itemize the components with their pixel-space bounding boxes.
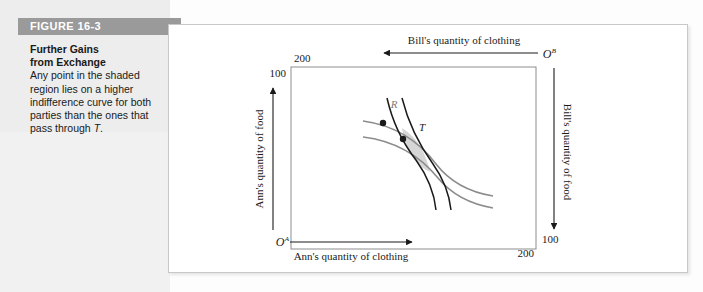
axis-label-right: Bill's quantity of food: [562, 104, 574, 201]
caption-title-line-1: Further Gains: [30, 43, 170, 56]
axis-label-bottom: Ann's quantity of clothing: [294, 250, 409, 262]
point-r-marker: [380, 120, 386, 126]
caption-body-end: .: [100, 122, 103, 134]
point-t-marker: [400, 136, 406, 142]
figure-page: FIGURE 16-3 Further Gains from Exchange …: [0, 0, 703, 292]
ann-indifference-curve-upper: [363, 137, 493, 208]
figure-number-label: FIGURE 16-3: [30, 20, 101, 32]
origin-ann-symbol: O: [276, 235, 285, 249]
origin-bill: O B: [543, 47, 557, 61]
tick-label-top-outer: 200: [294, 52, 311, 64]
caption-body: Any point in the shaded region lies on a…: [30, 69, 170, 135]
origin-bill-superscript: B: [552, 47, 557, 55]
tick-label-bottom-inner: 100: [542, 233, 559, 245]
figure-header-bar: FIGURE 16-3: [18, 18, 181, 35]
figure-caption: Further Gains from Exchange Any point in…: [30, 43, 170, 135]
bill-indifference-curve-right: [402, 98, 451, 210]
edgeworth-box-diagram: 200 100 100 200 O A O B Ann's quantity o…: [168, 24, 688, 273]
axis-label-top: Bill's quantity of clothing: [408, 34, 521, 46]
caption-title-line-2: from Exchange: [30, 56, 170, 69]
caption-body-text: Any point in the shaded region lies on a…: [30, 69, 151, 134]
point-r-label: R: [390, 98, 398, 110]
tick-label-bottom-outer: 200: [518, 247, 535, 259]
origin-bill-symbol: O: [543, 47, 552, 61]
origin-ann: O A: [276, 235, 290, 249]
point-t-label: T: [419, 121, 426, 133]
ann-indifference-curve-lower: [363, 121, 493, 196]
tick-label-top-inner: 100: [270, 67, 287, 79]
origin-ann-superscript: A: [284, 235, 290, 243]
axis-label-left: Ann's quantity of food: [253, 109, 265, 208]
